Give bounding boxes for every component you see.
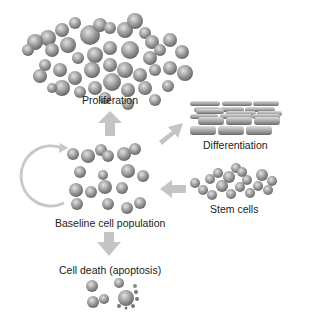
stem-cells — [190, 163, 277, 200]
label-differentiation: Differentiation — [203, 139, 268, 151]
baseline-cells — [67, 143, 149, 214]
apoptotic-cells — [86, 278, 139, 310]
arrow-to-differentiation — [159, 123, 183, 145]
self-renewal-loop-arrow — [21, 146, 64, 206]
loop-arrowhead — [59, 143, 68, 153]
arrow-up-to-proliferation — [98, 111, 122, 136]
arrow-down-to-cell-death — [97, 232, 121, 256]
label-proliferation: Proliferation — [82, 94, 138, 106]
arrow-from-stem-cells — [160, 180, 186, 198]
label-stem-cells: Stem cells — [210, 203, 258, 215]
differentiated-cells — [190, 101, 282, 135]
label-baseline-population: Baseline cell population — [55, 217, 165, 229]
label-cell-death: Cell death (apoptosis) — [59, 264, 161, 276]
